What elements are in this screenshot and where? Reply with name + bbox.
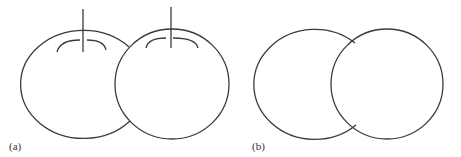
panel-b-label: (b) (252, 140, 265, 153)
right-fruit-outline (115, 29, 229, 139)
left-circle-outline (254, 29, 356, 139)
panel-a-label: (a) (9, 140, 22, 153)
right-circle-outline (331, 29, 443, 139)
figure: (a) (b) (0, 0, 461, 157)
left-fruit-outline (21, 30, 130, 138)
panel-b: (b) (252, 29, 443, 153)
left-fruit-highlight-arc (57, 40, 106, 52)
right-fruit-highlight-arc (146, 38, 198, 48)
panel-a: (a) (9, 7, 229, 153)
